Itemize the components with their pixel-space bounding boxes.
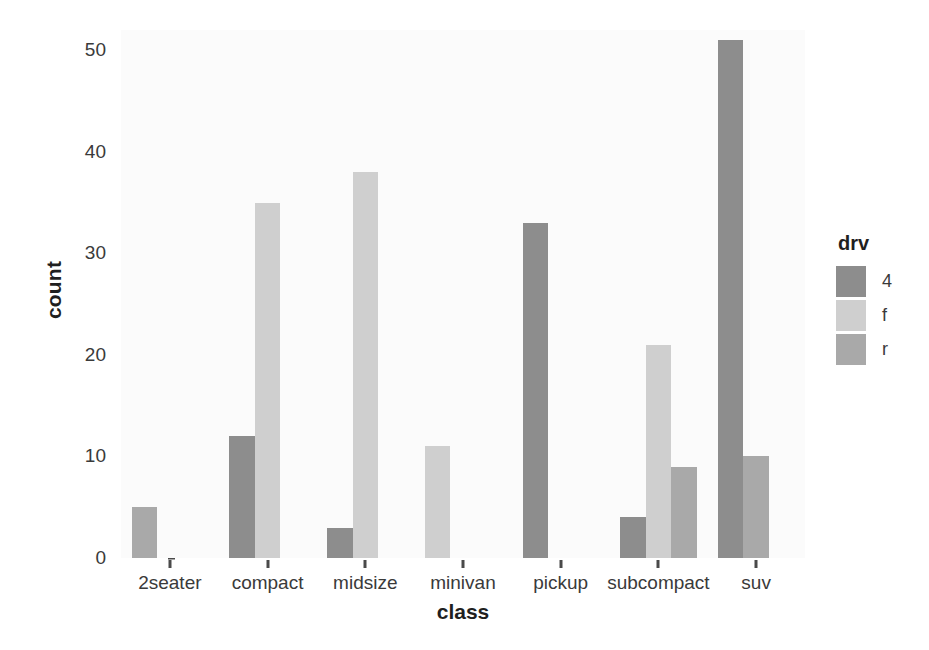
bars-layer	[121, 30, 805, 558]
legend-entries: 4fr	[836, 264, 926, 366]
bar	[523, 223, 548, 558]
legend-item: f	[836, 298, 926, 332]
bar	[671, 467, 696, 558]
legend-title: drv	[836, 232, 926, 255]
bar	[353, 172, 378, 558]
x-tick-label: midsize	[333, 572, 397, 594]
y-tick-label: 20	[58, 344, 106, 366]
legend-label: r	[882, 339, 888, 360]
bar	[743, 456, 768, 558]
x-tick-mark	[266, 560, 269, 568]
x-tick-mark	[559, 560, 562, 568]
y-tick-label: 10	[58, 445, 106, 467]
y-tick-label: 50	[58, 39, 106, 61]
x-tick-mark	[364, 560, 367, 568]
plot-panel	[121, 30, 805, 558]
x-tick-label: compact	[232, 572, 304, 594]
legend-label: 4	[882, 271, 892, 292]
x-axis-title: class	[121, 600, 805, 624]
legend-item: 4	[836, 264, 926, 298]
legend-item: r	[836, 332, 926, 366]
bar	[327, 528, 352, 558]
x-tick-mark	[462, 560, 465, 568]
x-tick-label: minivan	[430, 572, 495, 594]
x-tick-label: pickup	[533, 572, 588, 594]
y-axis-ticks: 01020304050	[58, 0, 106, 650]
bar	[132, 507, 157, 558]
bar	[425, 446, 450, 558]
bar	[718, 40, 743, 558]
bar	[255, 203, 280, 558]
legend-swatch	[836, 266, 866, 297]
legend-label: f	[882, 305, 887, 326]
bar	[229, 436, 254, 558]
y-tick-label: 30	[58, 242, 106, 264]
y-tick-label: 40	[58, 141, 106, 163]
legend-swatch	[836, 334, 866, 365]
x-tick-mark	[755, 560, 758, 568]
bar	[620, 517, 645, 558]
bar	[646, 345, 671, 558]
x-tick-mark	[168, 560, 171, 568]
x-tick-label: 2seater	[138, 572, 201, 594]
y-tick-label: 0	[58, 547, 106, 569]
x-tick-mark	[657, 560, 660, 568]
legend-swatch	[836, 300, 866, 331]
legend: drv 4fr	[836, 232, 926, 366]
x-tick-label: suv	[741, 572, 771, 594]
bar-chart: count 01020304050 2seatercompactmidsizem…	[0, 0, 929, 650]
x-tick-label: subcompact	[607, 572, 709, 594]
